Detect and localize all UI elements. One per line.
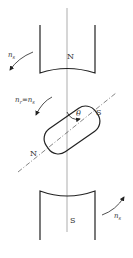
speed-label-bottom-right: ns bbox=[114, 212, 122, 221]
bottom-stator-pole bbox=[40, 191, 95, 240]
top-stator-pole bbox=[40, 25, 95, 73]
speed-arrow-rotor bbox=[36, 97, 52, 115]
speed-label-top-left: ns bbox=[8, 51, 16, 60]
top-pole-label: N bbox=[67, 52, 74, 61]
speed-arrow-bottom-right bbox=[102, 197, 124, 215]
rotor-north-label: N bbox=[30, 149, 37, 158]
rotor bbox=[39, 101, 104, 158]
theta-label: θ bbox=[76, 109, 81, 118]
bottom-pole-label: S bbox=[70, 216, 75, 225]
speed-label-rotor: nr=ns bbox=[15, 96, 35, 105]
rotor-south-label: S bbox=[96, 108, 101, 117]
rotor-stator-diagram: N S N S θ ns nr=ns ns bbox=[0, 0, 133, 258]
